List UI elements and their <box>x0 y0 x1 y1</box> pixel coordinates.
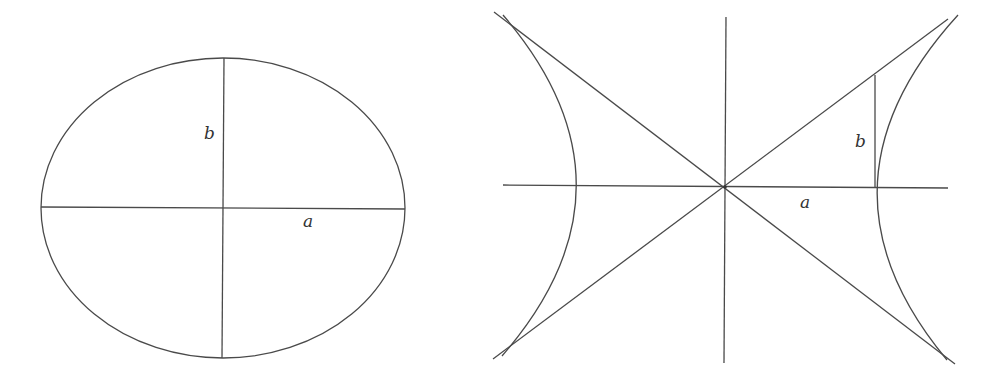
ellipse-figure: b a <box>41 58 405 358</box>
hyperbola-figure: b a <box>493 12 958 364</box>
ellipse-label-b: b <box>204 123 215 143</box>
conic-sections-diagram: b a b a <box>0 0 994 381</box>
hyperbola-conjugate-axis <box>724 17 726 363</box>
ellipse-label-a: a <box>303 211 313 231</box>
hyperbola-center-point <box>723 185 727 189</box>
hyperbola-label-a: a <box>800 192 810 212</box>
hyperbola-label-b: b <box>855 131 866 151</box>
hyperbola-asymptote-ascending <box>493 19 948 359</box>
